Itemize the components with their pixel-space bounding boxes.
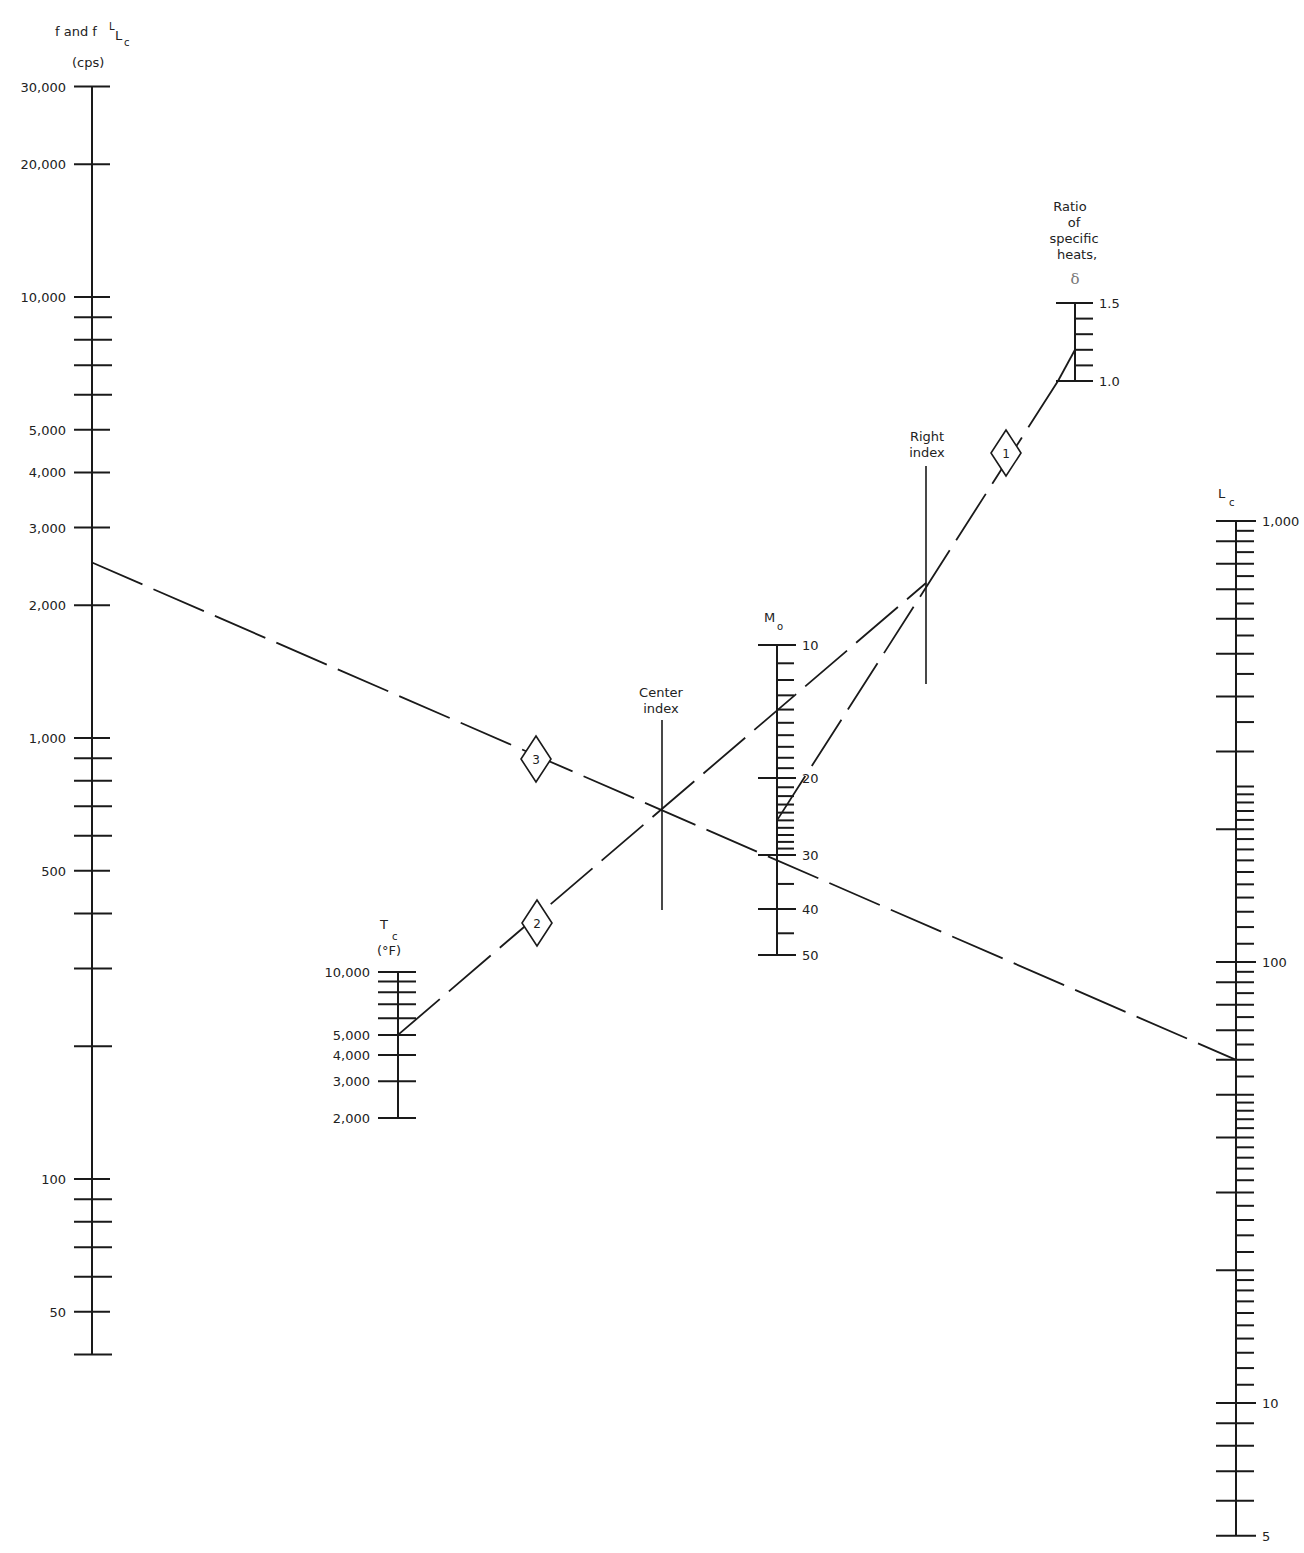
delta-title-3: specific <box>1049 231 1098 246</box>
m0-tick-label: 10 <box>802 638 819 653</box>
step-marker-two: 2 <box>522 900 552 946</box>
lc-scale-title-sub: c <box>1229 497 1235 508</box>
f-tick-label: 1,000 <box>29 731 66 746</box>
right-index-label-2: index <box>909 445 945 460</box>
step-marker-three: 3 <box>521 736 551 782</box>
f-tick-label: 3,000 <box>29 521 66 536</box>
f-tick-label: 50 <box>49 1305 66 1320</box>
step-marker-label: 3 <box>532 753 540 767</box>
delta-scale: Ratio of specific heats, δ <box>1049 199 1098 288</box>
m0-scale: M o <box>764 610 783 632</box>
center-index: Center index <box>639 685 683 910</box>
m0-tick-label: 50 <box>802 948 819 963</box>
f-scale-title: f and f <box>55 24 97 39</box>
right-index-label-1: Right <box>910 429 944 444</box>
f-scale: f and f L L c (cps) <box>55 21 130 70</box>
delta-title-1: Ratio <box>1053 199 1086 214</box>
lc-tick-label: 5 <box>1262 1529 1270 1544</box>
solution-line-3 <box>92 563 1236 1060</box>
step-marker-one: 1 <box>991 430 1021 476</box>
m0-tick-label: 30 <box>802 848 819 863</box>
tc-scale-title: T <box>379 917 388 932</box>
line-1-tail <box>1058 350 1075 381</box>
f-tick-label: 5,000 <box>29 423 66 438</box>
center-index-label-1: Center <box>639 685 683 700</box>
step-marker-label: 2 <box>533 917 541 931</box>
step-markers: 123 <box>521 430 1021 946</box>
f-scale-units: (cps) <box>72 55 104 70</box>
lc-scale: L c <box>1218 486 1235 508</box>
tc-tick-label: 10,000 <box>325 965 371 980</box>
f-tick-label: 10,000 <box>21 290 67 305</box>
step-marker-label: 1 <box>1002 447 1010 461</box>
tc-scale-title-sub: c <box>392 931 398 942</box>
f-scale-title-sub: c <box>124 37 130 48</box>
f-tick-label: 30,000 <box>21 80 67 95</box>
f-tick-label: 100 <box>41 1172 66 1187</box>
tc-scale-units: (°F) <box>377 943 401 958</box>
m0-scale-title: M <box>764 610 775 625</box>
f-scale-title-l: L <box>115 28 123 43</box>
f-tick-label: 500 <box>41 864 66 879</box>
delta-tick-label: 1.5 <box>1099 296 1120 311</box>
tc-tick-label: 3,000 <box>333 1074 370 1089</box>
f-tick-label: 2,000 <box>29 598 66 613</box>
m0-tick-label: 40 <box>802 902 819 917</box>
lc-tick-label: 100 <box>1262 955 1287 970</box>
delta-tick-label: 1.0 <box>1099 374 1120 389</box>
m0-scale-title-sub: o <box>777 621 783 632</box>
right-index: Right index <box>909 429 945 684</box>
tc-tick-label: 2,000 <box>333 1111 370 1126</box>
tc-tick-label: 4,000 <box>333 1048 370 1063</box>
f-tick-label: 4,000 <box>29 465 66 480</box>
delta-title-2: of <box>1068 215 1081 230</box>
delta-title-4: heats, <box>1057 247 1097 262</box>
solution-line-2 <box>398 583 926 1035</box>
f-tick-label: 20,000 <box>21 157 67 172</box>
tc-tick-label: 5,000 <box>333 1028 370 1043</box>
lc-tick-label: 10 <box>1262 1396 1279 1411</box>
lc-scale-title: L <box>1218 486 1226 501</box>
delta-symbol: δ <box>1070 270 1079 288</box>
lc-tick-label: 1,000 <box>1262 514 1299 529</box>
nomogram: f and f L L c (cps) T c (°F) Center inde… <box>0 0 1304 1553</box>
tc-scale: T c (°F) <box>377 917 401 958</box>
center-index-label-2: index <box>643 701 679 716</box>
